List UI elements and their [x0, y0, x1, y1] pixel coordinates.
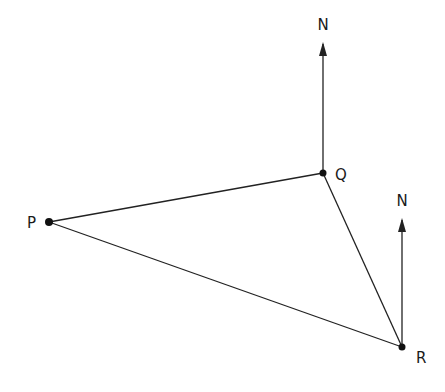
north-arrow-q: N	[317, 16, 328, 173]
north-arrow-r: N	[396, 192, 407, 347]
north-label-q: N	[317, 16, 328, 34]
point-q	[320, 170, 327, 177]
arrowhead-icon	[398, 218, 406, 232]
label-r: R	[416, 349, 426, 367]
edge-pq	[49, 173, 323, 222]
edge-pr	[49, 222, 402, 347]
north-label-r: N	[396, 192, 407, 210]
bearing-diagram: N N P Q R	[0, 0, 445, 392]
label-p: P	[27, 214, 36, 232]
edge-qr	[323, 173, 402, 347]
arrowhead-icon	[319, 42, 327, 56]
point-p	[45, 218, 53, 226]
point-r	[399, 344, 406, 351]
label-q: Q	[335, 166, 347, 184]
